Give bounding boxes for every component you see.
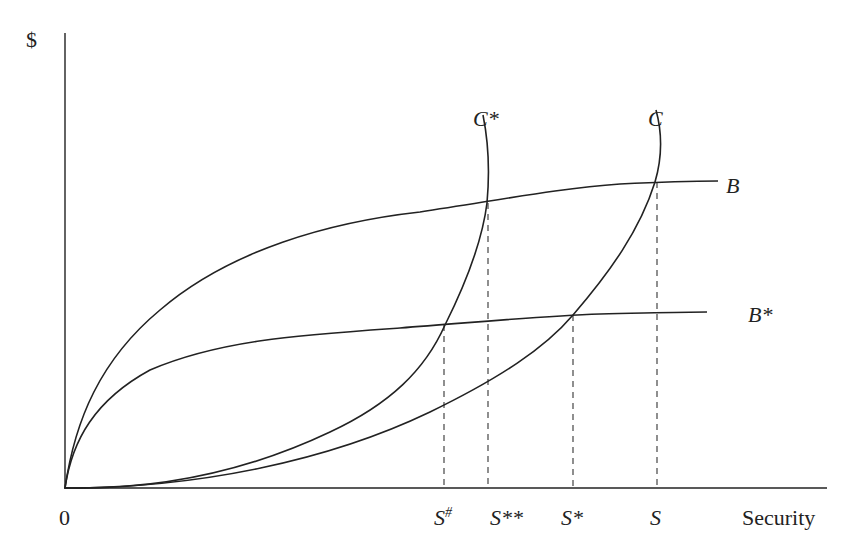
- x-axis-label: Security: [742, 505, 815, 530]
- curve-b-star: [65, 312, 707, 488]
- marker-s-star-star: S**: [490, 505, 523, 530]
- curve-b-star-label: B*: [748, 302, 772, 327]
- marker-s-hash: S#: [434, 505, 453, 530]
- curve-c: [65, 110, 660, 488]
- y-axis-label: $: [26, 27, 37, 52]
- curve-c-star: [65, 115, 488, 488]
- curve-c-label: C: [648, 106, 663, 131]
- marker-s-star: S*: [561, 505, 583, 530]
- origin-label: 0: [59, 505, 70, 530]
- curve-c-star-label: C*: [473, 106, 499, 131]
- curve-b-label: B: [726, 173, 739, 198]
- curve-b: [65, 181, 718, 488]
- security-cost-benefit-diagram: $ 0 Security B B* C* C S# S** S* S: [0, 0, 860, 548]
- marker-s: S: [650, 505, 661, 530]
